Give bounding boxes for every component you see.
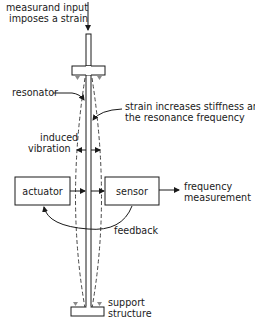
- strain-label: strain increases stiffness and the reson…: [125, 101, 255, 123]
- svg-text:sensor: sensor: [116, 186, 148, 197]
- bottom-support-marker-left: [73, 302, 78, 306]
- svg-text:the resonance frequency: the resonance frequency: [125, 112, 245, 123]
- svg-text:support: support: [108, 297, 145, 308]
- svg-text:vibration: vibration: [28, 143, 71, 154]
- svg-text:frequency: frequency: [184, 181, 232, 192]
- resonator-beam: [86, 75, 91, 312]
- bottom-support-marker-right: [97, 302, 102, 306]
- feedback-label: feedback: [114, 225, 159, 236]
- svg-text:measurement: measurement: [184, 192, 251, 203]
- vibration-label: induced vibration: [28, 132, 78, 154]
- top-support-marker-right: [97, 76, 102, 80]
- bottom-support: [71, 302, 104, 316]
- top-clamp: [72, 34, 105, 80]
- resonant-sensor-diagram: measurand input imposes a strain resonat…: [0, 0, 255, 327]
- svg-text:induced: induced: [40, 132, 78, 143]
- svg-text:measurand input: measurand input: [6, 2, 88, 13]
- svg-text:strain increases stiffness and: strain increases stiffness and: [125, 101, 255, 112]
- input-label: measurand input imposes a strain: [6, 2, 88, 24]
- svg-text:imposes a strain: imposes a strain: [9, 13, 88, 24]
- svg-text:actuator: actuator: [22, 186, 63, 197]
- svg-text:structure: structure: [108, 308, 152, 319]
- support-label: support structure: [108, 297, 152, 319]
- sensor-block: sensor: [105, 177, 159, 205]
- vibration-envelope: [76, 78, 102, 308]
- resonator-label: resonator: [12, 87, 58, 98]
- output-label: frequency measurement: [184, 181, 251, 203]
- top-support-marker-left: [75, 76, 80, 80]
- actuator-block: actuator: [15, 177, 70, 205]
